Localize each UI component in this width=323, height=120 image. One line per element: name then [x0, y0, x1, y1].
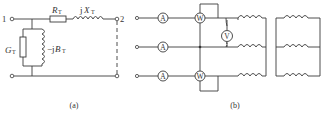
ammeter-a-label: A: [160, 14, 166, 23]
series-resistor-rt: [50, 16, 66, 22]
ammeter-b-label: A: [160, 43, 166, 52]
input-terminal-a: [135, 16, 138, 19]
shunt-inductor-bt: [42, 29, 45, 66]
wattmeter-1-label: W: [196, 14, 204, 23]
primary-coil-c: [238, 74, 266, 77]
series-inductor-xt: [73, 17, 103, 20]
primary-coil-b: [238, 45, 266, 48]
terminal-2: [115, 17, 119, 21]
gt-symbol: G: [5, 45, 12, 55]
terminal-1: [10, 17, 14, 21]
gt-subscript: T: [12, 49, 16, 55]
panel-a-equivalent-circuit: [10, 16, 119, 78]
rt-symbol: R: [51, 5, 58, 15]
caption-a: (a): [70, 101, 79, 110]
xt-subscript: T: [91, 9, 95, 15]
secondary-coil-b: [276, 45, 320, 48]
xt-prefix: j: [79, 5, 83, 15]
transformer-test-circuit-diagram: 1 2 R T j X T G T −j B T A A A W W V (a)…: [0, 0, 323, 120]
bt-prefix: −j: [47, 44, 55, 54]
rt-subscript: T: [58, 9, 62, 15]
bt-symbol: B: [55, 44, 61, 54]
input-terminal-c: [135, 74, 138, 77]
bt-subscript: T: [62, 48, 66, 54]
input-terminal-b: [135, 45, 138, 48]
secondary-coil-c: [276, 74, 320, 77]
voltmeter-label: V: [224, 32, 230, 41]
terminal-1-label: 1: [2, 14, 6, 24]
caption-b: (b): [230, 101, 240, 110]
secondary-coil-a: [276, 16, 320, 19]
terminal-2-label: 2: [120, 14, 124, 24]
shunt-resistor-gt: [20, 37, 26, 57]
primary-coil-a: [238, 16, 266, 21]
wattmeter-2-label: W: [196, 72, 204, 81]
xt-symbol: X: [83, 5, 90, 15]
terminal-1-return: [10, 74, 14, 78]
terminal-2-return: [115, 74, 119, 78]
ammeter-c-label: A: [160, 72, 166, 81]
